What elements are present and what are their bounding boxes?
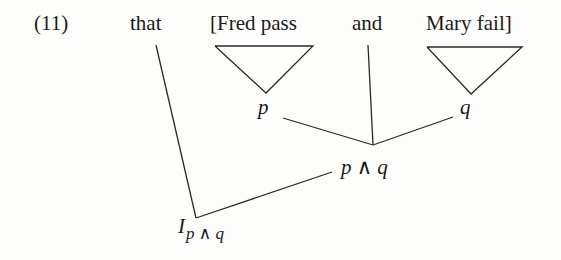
branch-p-and-q	[196, 172, 332, 218]
word-fred-pass: [Fred pass	[210, 13, 297, 34]
triangle-mary-fail	[427, 47, 522, 94]
linguistic-tree-figure: (11) that [Fred pass and Mary fail] p q …	[0, 0, 561, 260]
tree-branches	[0, 0, 561, 260]
node-p: p	[258, 97, 269, 118]
node-q: q	[460, 97, 471, 118]
word-that: that	[130, 13, 162, 34]
word-mary-fail: Mary fail]	[426, 13, 512, 34]
example-number: (11)	[34, 13, 68, 34]
node-I-subscript: p ∧ q	[186, 224, 224, 243]
node-I-base: I	[178, 214, 185, 238]
branch-and	[368, 45, 373, 145]
triangle-fred-pass	[215, 46, 313, 93]
node-I: Ip ∧ q	[178, 216, 224, 237]
branch-q	[373, 117, 453, 145]
word-and: and	[352, 13, 382, 34]
node-p-and-q: p ∧ q	[341, 157, 388, 178]
branch-that	[156, 45, 196, 218]
branch-p	[283, 118, 373, 145]
